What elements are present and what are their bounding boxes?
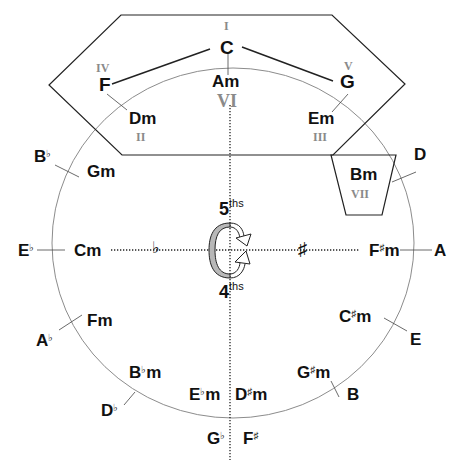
fifths-label: 5ths [219,200,244,218]
numeral-vi: VI [217,92,237,110]
key-b-minor: Bm [350,166,377,183]
key-g-minor: Gm [87,163,115,180]
tick-db-bbm [124,392,135,405]
sharp-side-symbol: ♯ [298,240,307,258]
numeral-iv: IV [96,62,109,74]
key-fs-minor: F♯m [369,242,400,259]
key-a-minor: Am [212,73,239,90]
flat-side-symbol: ♭ [152,240,160,256]
key-a-major: A [434,242,446,259]
key-c-minor: Cm [74,242,101,259]
key-f-minor: Fm [87,312,113,329]
key-g-major: G [340,72,355,91]
vii-trapezoid [331,155,396,215]
key-cs-minor: C♯m [339,308,371,325]
tick-bb-gm [55,165,79,177]
tick-f-dm [107,94,127,110]
key-e-minor: Em [308,110,334,127]
numeral-i: I [224,20,229,32]
circle-of-fifths-ring [52,68,414,418]
key-f-major: F [99,75,111,94]
key-d-minor: Dm [129,110,156,127]
tick-d-bm [392,172,416,182]
key-ds-minor: D♯m [235,386,267,403]
key-b-major: B [347,386,359,403]
key-bb-minor: B♭m [129,364,161,381]
key-bb-major: B♭ [34,148,51,165]
numeral-vii: VII [351,188,369,200]
tick-ab-fm [59,315,82,330]
key-c-major: C [220,38,234,57]
key-fs-major: F♯ [243,430,258,447]
c-to-f-line [112,49,210,84]
key-ab-major: A♭ [36,332,53,349]
key-eb-minor: E♭m [189,386,220,403]
key-db-major: D♭ [101,402,118,419]
key-d-major: D [414,146,426,163]
key-e-major: E [410,331,421,348]
key-gs-minor: G♯m [297,364,330,381]
key-eb-major: E♭ [18,242,34,259]
circle-of-fifths-diagram: I IV V VI II III VII C F G D A E B G♭ F♯… [0,0,456,460]
numeral-ii: II [136,131,145,143]
diagram-lines [0,0,456,460]
key-gb-major: G♭ [207,430,225,447]
numeral-iii: III [313,131,327,143]
fourths-label: 4ths [219,283,244,301]
